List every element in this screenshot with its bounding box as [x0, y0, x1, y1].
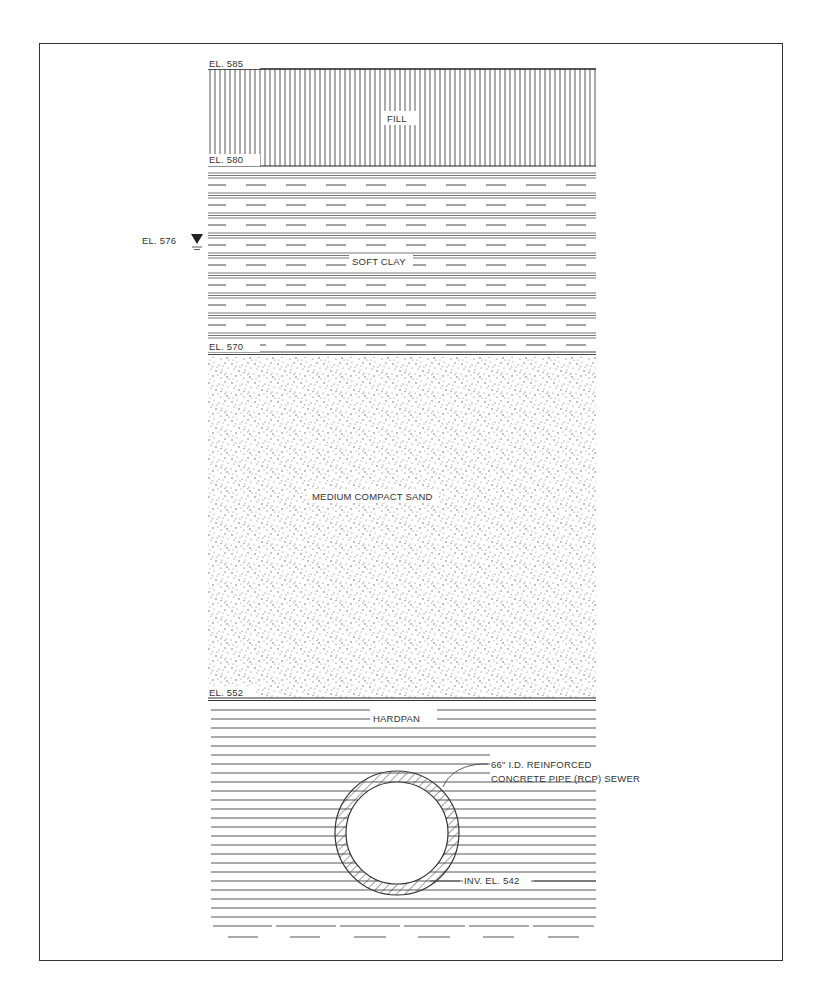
- sand-label: MEDIUM COMPACT SAND: [312, 491, 433, 502]
- pipe-label-line1: 66" I.D. REINFORCED: [491, 759, 592, 770]
- fill-label: FILL: [387, 113, 407, 124]
- soil-profile-diagram: FILL EL. 585 EL. 580 SOFT CLAY EL. 570 E…: [0, 0, 826, 990]
- pipe-callout-leader: [443, 764, 488, 787]
- pipe-label-line2: CONCRETE PIPE (RCP) SEWER: [491, 773, 640, 784]
- elevation-552-label: EL. 552: [209, 687, 243, 698]
- rcp-sewer-pipe: [335, 771, 459, 895]
- elevation-585-label: EL. 585: [209, 58, 243, 69]
- invert-elevation-label: INV. EL. 542: [464, 875, 519, 886]
- hardpan-label: HARDPAN: [373, 713, 420, 724]
- medium-compact-sand-layer: MEDIUM COMPACT SAND: [208, 357, 596, 698]
- water-table-triangle-icon: [191, 234, 203, 250]
- soft-clay-label: SOFT CLAY: [352, 256, 406, 267]
- elevation-580-label: EL. 580: [209, 154, 243, 165]
- elevation-570-label: EL. 570: [209, 341, 243, 352]
- elevation-576-label: EL. 576: [142, 235, 176, 246]
- fill-layer: FILL: [208, 69, 596, 166]
